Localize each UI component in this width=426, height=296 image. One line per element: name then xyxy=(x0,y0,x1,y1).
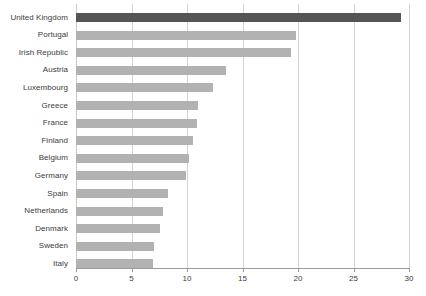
bar xyxy=(76,48,291,57)
bar xyxy=(76,136,193,145)
category-label: Denmark xyxy=(0,224,68,233)
gridline-25 xyxy=(354,4,355,268)
category-label: Netherlands xyxy=(0,206,68,215)
category-label: Luxembourg xyxy=(0,83,68,92)
bar xyxy=(76,13,401,22)
tick-mark-30 xyxy=(409,268,410,272)
category-label: Germany xyxy=(0,171,68,180)
category-label: United Kingdom xyxy=(0,13,68,22)
x-tick-label: 25 xyxy=(344,274,364,284)
plot-area xyxy=(76,4,409,268)
category-label: Finland xyxy=(0,136,68,145)
category-label: Greece xyxy=(0,101,68,110)
bar xyxy=(76,31,296,40)
bar xyxy=(76,242,154,251)
category-label: Spain xyxy=(0,189,68,198)
x-tick-label: 5 xyxy=(122,274,142,284)
category-label: Sweden xyxy=(0,241,68,250)
tick-mark-10 xyxy=(187,268,188,272)
bar-chart: United KingdomPortugalIrish RepublicAust… xyxy=(0,0,426,296)
gridline-15 xyxy=(243,4,244,268)
x-tick-label: 30 xyxy=(399,274,419,284)
bar xyxy=(76,207,163,216)
tick-mark-15 xyxy=(243,268,244,272)
tick-mark-5 xyxy=(132,268,133,272)
x-tick-label: 0 xyxy=(66,274,86,284)
bar xyxy=(76,101,198,110)
bar xyxy=(76,189,168,198)
category-label: Italy xyxy=(0,259,68,268)
bar xyxy=(76,119,197,128)
x-tick-label: 15 xyxy=(233,274,253,284)
tick-mark-0 xyxy=(76,268,77,272)
bar xyxy=(76,171,186,180)
bar xyxy=(76,224,160,233)
x-tick-label: 20 xyxy=(288,274,308,284)
category-label: Austria xyxy=(0,65,68,74)
tick-mark-20 xyxy=(298,268,299,272)
x-tick-label: 10 xyxy=(177,274,197,284)
category-axis-labels: United KingdomPortugalIrish RepublicAust… xyxy=(0,0,72,296)
bar xyxy=(76,154,189,163)
gridline-30 xyxy=(409,4,410,268)
category-label: France xyxy=(0,118,68,127)
bar xyxy=(76,83,213,92)
tick-mark-25 xyxy=(354,268,355,272)
category-label: Belgium xyxy=(0,153,68,162)
bar xyxy=(76,66,226,75)
gridline-20 xyxy=(298,4,299,268)
category-label: Portugal xyxy=(0,30,68,39)
category-label: Irish Republic xyxy=(0,48,68,57)
